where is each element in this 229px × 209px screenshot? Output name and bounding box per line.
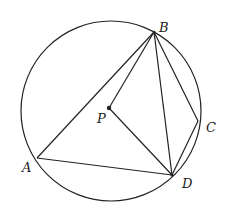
segment-ab [37,32,154,158]
segment-da [37,158,172,175]
label-d: D [181,176,193,191]
label-b: B [158,20,169,35]
segment-bd [154,32,172,175]
label-a: A [21,160,31,175]
segment-bc [154,32,198,121]
diagram-canvas: A B C D P [0,0,229,209]
point-b-dot [153,31,156,34]
point-d-dot [171,174,174,177]
segment-cd [172,121,198,175]
geometry-diagram: A B C D P [0,0,229,209]
segment-bp [109,32,154,108]
label-c: C [206,120,216,135]
segment-pd [109,108,172,175]
label-p: P [96,111,106,126]
segments-group [37,32,198,175]
point-p-dot [107,106,111,110]
